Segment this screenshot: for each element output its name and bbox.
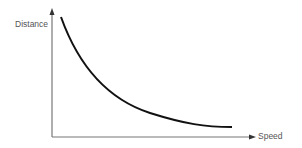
x-axis-arrow-icon <box>249 135 256 140</box>
distance-speed-curve <box>61 17 232 127</box>
x-axis-label: Speed <box>258 131 283 141</box>
y-axis-arrow-icon <box>50 8 55 15</box>
y-axis-label: Distance <box>15 19 48 29</box>
chart: Distance Speed <box>0 0 302 148</box>
